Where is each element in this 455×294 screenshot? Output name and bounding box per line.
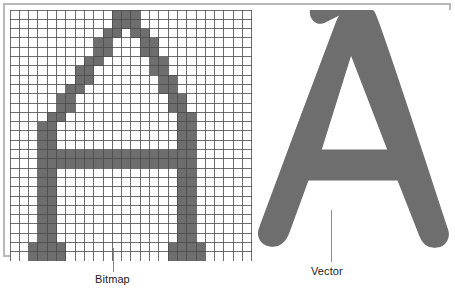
bitmap-ink-cells (29, 10, 206, 261)
vector-caption-label: Vector (311, 265, 343, 277)
bitmap-ink-cell (112, 10, 140, 19)
bitmap-vs-vector-figure: Bitmap Vector (0, 0, 455, 294)
figure-panel (3, 3, 451, 257)
vector-glyph-a-path (259, 10, 449, 247)
bitmap-grid (10, 10, 252, 261)
bitmap-ink-cell (112, 19, 140, 28)
vector-illustration (252, 10, 453, 260)
bitmap-ink-cell (38, 150, 196, 159)
bitmap-leader-line (113, 248, 114, 272)
vector-leader-line (331, 210, 332, 262)
bitmap-illustration (10, 10, 252, 260)
bitmap-caption-label: Bitmap (95, 273, 130, 285)
bitmap-ink-cell (38, 159, 196, 168)
vector-glyph-svg (252, 10, 453, 260)
